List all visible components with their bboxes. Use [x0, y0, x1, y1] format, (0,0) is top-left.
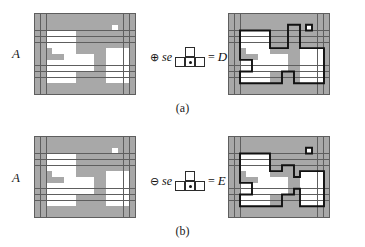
grid-cell [112, 195, 117, 200]
grid-cell [318, 195, 323, 200]
grid-cell [70, 25, 75, 30]
grid-cell [106, 183, 111, 188]
grid-cell [246, 48, 251, 53]
grid-cell [58, 166, 63, 171]
grid-cell [64, 25, 69, 30]
grid-cell [112, 160, 117, 165]
grid-cell [229, 19, 234, 24]
grid-cell [312, 160, 317, 165]
grid-cell [246, 166, 251, 171]
grid-cell [229, 72, 234, 77]
grid-cell [58, 171, 63, 176]
grid-cell [270, 160, 275, 165]
grid-cell [246, 137, 251, 142]
grid-cell [106, 78, 111, 83]
grid-cell [264, 148, 269, 153]
grid-cell [130, 177, 135, 182]
grid-cell [76, 189, 81, 194]
grid-cell [52, 66, 57, 71]
grid-cell [64, 83, 69, 88]
grid-cell [294, 166, 299, 171]
grid-cell [106, 19, 111, 24]
grid-cell [282, 142, 287, 147]
grid-cell [76, 166, 81, 171]
grid-cell [82, 25, 87, 30]
grid-cell [88, 183, 93, 188]
grid-cell [288, 54, 293, 59]
grid-cell [41, 212, 46, 217]
grid-cell [35, 60, 40, 65]
panel-a-input-label: A [12, 46, 20, 62]
grid-cell [58, 25, 63, 30]
grid-cell [235, 189, 240, 194]
grid-cell [235, 201, 240, 206]
grid-cell [229, 154, 234, 159]
grid-cell [324, 83, 329, 88]
grid-cell [252, 137, 257, 142]
grid-cell [88, 189, 93, 194]
grid-cell [106, 137, 111, 142]
grid-cell [94, 206, 99, 211]
grid-cell [47, 206, 52, 211]
grid-cell [241, 142, 246, 147]
grid-cell [100, 160, 105, 165]
grid-cell [264, 171, 269, 176]
grid-cell [306, 89, 311, 94]
grid-cell [112, 43, 117, 48]
grid-cell [35, 171, 40, 176]
grid-cell [241, 14, 246, 19]
grid-cell [64, 48, 69, 53]
grid-cell [88, 160, 93, 165]
grid-cell [88, 148, 93, 153]
grid-cell [258, 78, 263, 83]
grid-cell [88, 166, 93, 171]
grid-cell [82, 54, 87, 59]
grid-cell [47, 78, 52, 83]
grid-cell [58, 37, 63, 42]
grid-cell [318, 154, 323, 159]
grid-cell [112, 60, 117, 65]
grid-cell [100, 37, 105, 42]
grid-cell [258, 206, 263, 211]
grid-cell [35, 19, 40, 24]
grid-cell [282, 154, 287, 159]
grid-cell [324, 19, 329, 24]
grid-cell [324, 137, 329, 142]
grid-cell [76, 142, 81, 147]
grid-cell [118, 154, 123, 159]
grid-cell [276, 183, 281, 188]
grid-cell [112, 177, 117, 182]
grid-cell [288, 160, 293, 165]
grid-cell [35, 78, 40, 83]
grid-cell [58, 72, 63, 77]
grid-cell [88, 66, 93, 71]
grid-cell [70, 137, 75, 142]
grid-cell [288, 195, 293, 200]
grid-cell [70, 31, 75, 36]
grid-cell [288, 43, 293, 48]
grid-cell [258, 148, 263, 153]
grid-cell [94, 54, 99, 59]
grid-cell [82, 171, 87, 176]
grid-cell [35, 177, 40, 182]
grid-cell [47, 195, 52, 200]
grid-cell [306, 201, 311, 206]
grid-cell [270, 72, 275, 77]
grid-cell [294, 201, 299, 206]
se-cell-right [195, 57, 205, 67]
grid-cell [300, 166, 305, 171]
grid-cell [76, 54, 81, 59]
grid-cell [235, 142, 240, 147]
grid-cell [306, 177, 311, 182]
grid-cell [76, 148, 81, 153]
grid-cell [100, 54, 105, 59]
grid-cell [58, 189, 63, 194]
grid-cell [312, 43, 317, 48]
grid-cell [41, 54, 46, 59]
grid-cell [241, 189, 246, 194]
grid-cell [70, 171, 75, 176]
grid-cell [324, 14, 329, 19]
grid-cell [276, 142, 281, 147]
grid-cell [312, 154, 317, 159]
panel-b-input-grid [34, 136, 136, 218]
